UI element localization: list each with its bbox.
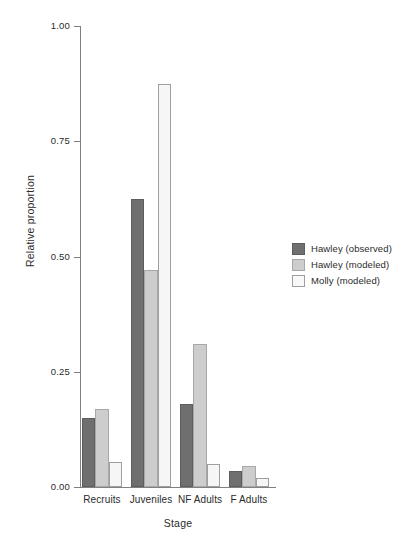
bar-group	[131, 26, 171, 487]
bar	[95, 409, 108, 487]
plot-area	[80, 26, 276, 487]
bar-chart-figure: 0.000.250.500.751.00 Relative proportion…	[0, 0, 411, 546]
chart-legend: Hawley (observed) Hawley (modeled) Molly…	[292, 241, 407, 289]
y-axis-tick-mark	[74, 487, 80, 488]
bar	[207, 464, 220, 487]
x-axis-title: Stage	[80, 517, 276, 529]
legend-swatch-icon-hawley-observed	[292, 243, 305, 255]
y-axis-tick-label: 0.50	[10, 252, 70, 262]
bar-group	[180, 26, 220, 487]
x-axis-category-label: F Adults	[209, 494, 289, 505]
bar	[131, 199, 144, 487]
bar-group	[229, 26, 269, 487]
legend-item-molly-modeled: Molly (modeled)	[292, 273, 407, 288]
legend-label-hawley-observed: Hawley (observed)	[311, 243, 392, 254]
legend-item-hawley-observed: Hawley (observed)	[292, 241, 407, 256]
legend-label-molly-modeled: Molly (modeled)	[311, 275, 380, 286]
bar	[82, 418, 95, 487]
x-axis-line	[80, 487, 276, 488]
y-axis-title: Relative proportion	[24, 111, 36, 331]
bar	[242, 466, 255, 487]
legend-label-hawley-modeled: Hawley (modeled)	[311, 259, 389, 270]
legend-swatch-icon-molly-modeled	[292, 275, 305, 287]
legend-swatch-icon-hawley-modeled	[292, 259, 305, 271]
y-axis-tick-label: 1.00	[10, 21, 70, 31]
y-axis-tick-label: 0.25	[10, 367, 70, 377]
y-axis-tick-label: 0.00	[10, 482, 70, 492]
bar	[144, 270, 157, 487]
y-axis-tick-label: 0.75	[10, 136, 70, 146]
legend-item-hawley-modeled: Hawley (modeled)	[292, 257, 407, 272]
bar	[180, 404, 193, 487]
bar-group	[82, 26, 122, 487]
bar	[109, 462, 122, 487]
bar	[229, 471, 242, 487]
bar	[158, 84, 171, 487]
bar	[193, 344, 206, 487]
bar	[256, 478, 269, 487]
